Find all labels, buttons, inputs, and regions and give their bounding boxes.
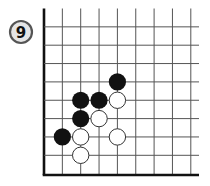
white-stone xyxy=(73,129,89,145)
black-stone xyxy=(72,92,89,109)
black-stone xyxy=(90,92,107,109)
white-stone xyxy=(91,110,107,126)
black-stone xyxy=(109,73,126,90)
white-stone xyxy=(109,92,125,108)
problem-number: 9 xyxy=(16,24,26,42)
problem-number-badge: 9 xyxy=(10,21,32,43)
white-stone xyxy=(73,147,89,163)
board-grid xyxy=(43,9,199,176)
black-stone xyxy=(72,110,89,127)
white-stone xyxy=(109,129,125,145)
go-board-diagram: 9 xyxy=(0,0,210,186)
black-stone xyxy=(54,128,71,145)
